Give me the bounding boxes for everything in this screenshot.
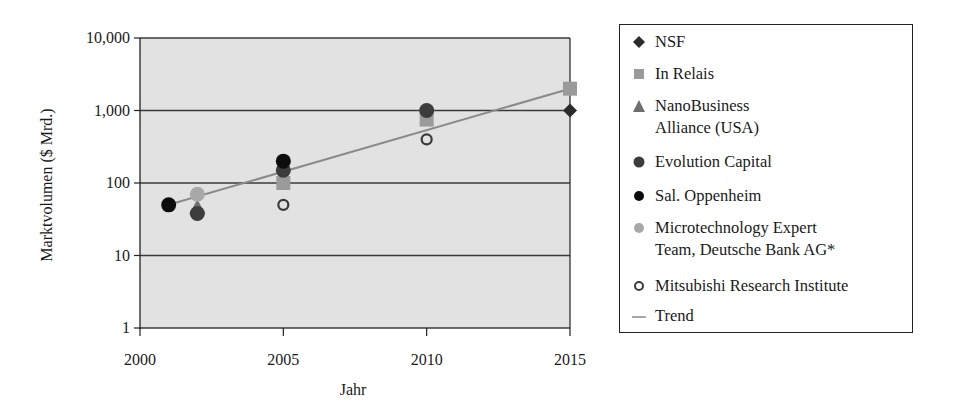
x-axis-ticks: 2000200520102015 (124, 328, 586, 368)
data-point (190, 206, 205, 221)
y-tick-label: 10 (114, 247, 130, 264)
light-gray-circle-marker-icon (632, 221, 646, 235)
legend-label: Sal. Oppenheim (655, 185, 761, 207)
y-axis-ticks: 1101001,00010,000 (86, 29, 140, 336)
data-point (161, 197, 176, 212)
data-point (190, 187, 205, 202)
square-marker-icon (632, 67, 646, 81)
black-circle-marker-icon (632, 189, 646, 203)
legend-label: Evolution Capital (655, 151, 772, 173)
x-tick-label: 2000 (124, 351, 156, 368)
legend: NSF In Relais NanoBusiness Alliance (USA… (619, 24, 913, 333)
dark-gray-circle-marker-icon (632, 155, 646, 169)
y-tick-label: 100 (106, 174, 130, 191)
legend-label: NanoBusiness Alliance (USA) (655, 95, 759, 139)
legend-label: Microtechnology Expert Team, Deutsche Ba… (655, 217, 835, 261)
data-point (563, 82, 577, 96)
data-point (276, 154, 291, 169)
legend-label: Mitsubishi Research Institute (655, 275, 848, 297)
x-tick-label: 2015 (554, 351, 586, 368)
diamond-marker-icon (632, 35, 646, 49)
x-tick-label: 2005 (267, 351, 299, 368)
x-tick-label: 2010 (411, 351, 443, 368)
legend-label: NSF (655, 31, 685, 53)
y-axis-title: Marktvolumen ($ Mrd.) (38, 108, 56, 261)
legend-label: In Relais (655, 63, 714, 85)
y-tick-label: 10,000 (86, 29, 130, 46)
open-circle-marker-icon (632, 279, 646, 293)
triangle-marker-icon (632, 99, 646, 113)
y-tick-label: 1,000 (94, 102, 130, 119)
y-tick-label: 1 (122, 319, 130, 336)
data-point (276, 176, 290, 190)
legend-label: Trend (655, 305, 694, 327)
x-axis-title: Jahr (340, 381, 367, 398)
data-point (419, 103, 434, 118)
line-marker-icon (632, 309, 646, 323)
